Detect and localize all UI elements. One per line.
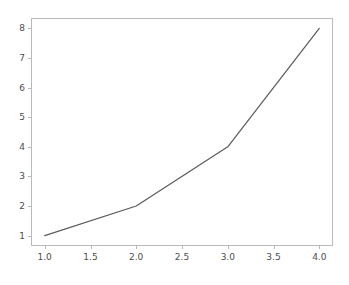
y-tick-label: 8 [19, 23, 25, 33]
x-tick-mark [45, 246, 46, 249]
x-tick-mark [274, 246, 275, 249]
x-tick-label: 3.5 [266, 252, 280, 262]
y-tick-mark [28, 88, 31, 89]
x-tick-mark [228, 246, 229, 249]
y-tick-mark [28, 147, 31, 148]
x-tick-mark [319, 246, 320, 249]
y-tick-label: 7 [19, 53, 25, 63]
x-tick-label: 1.0 [38, 252, 52, 262]
x-tick-mark [91, 246, 92, 249]
y-tick-label: 5 [19, 112, 25, 122]
x-tick-label: 1.5 [83, 252, 97, 262]
x-tick-label: 3.0 [221, 252, 235, 262]
x-tick-label: 4.0 [312, 252, 326, 262]
y-tick-mark [28, 117, 31, 118]
y-tick-mark [28, 176, 31, 177]
y-tick-mark [28, 58, 31, 59]
chart-svg [0, 0, 349, 285]
y-tick-label: 1 [19, 231, 25, 241]
x-tick-label: 2.0 [129, 252, 143, 262]
x-tick-label: 2.5 [175, 252, 189, 262]
y-tick-label: 4 [19, 142, 25, 152]
y-tick-label: 2 [19, 201, 25, 211]
y-tick-mark [28, 28, 31, 29]
y-tick-mark [28, 236, 31, 237]
y-tick-mark [28, 206, 31, 207]
figure-canvas: 1.01.52.02.53.03.54.0 12345678 [0, 0, 349, 285]
x-tick-mark [182, 246, 183, 249]
y-tick-label: 6 [19, 83, 25, 93]
data-series-line [45, 28, 320, 235]
x-tick-mark [136, 246, 137, 249]
y-tick-label: 3 [19, 171, 25, 181]
